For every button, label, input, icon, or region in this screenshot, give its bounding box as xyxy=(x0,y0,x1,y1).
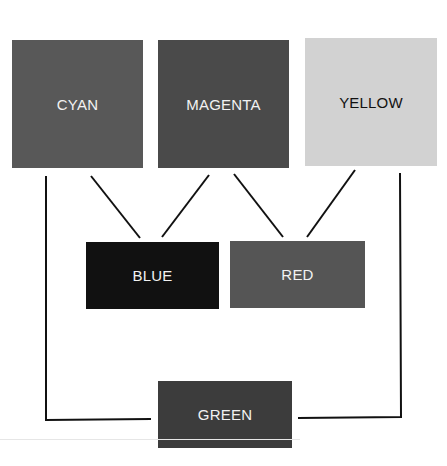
magenta-box: MAGENTA xyxy=(158,40,289,168)
red-label: RED xyxy=(281,266,313,283)
magenta-label: MAGENTA xyxy=(186,96,260,113)
connector-magenta-blue xyxy=(162,175,209,237)
green-label: GREEN xyxy=(198,406,252,423)
cyan-label: CYAN xyxy=(57,96,98,113)
blue-label: BLUE xyxy=(133,267,173,284)
yellow-box: YELLOW xyxy=(305,38,437,166)
faint-divider xyxy=(0,439,300,440)
red-box: RED xyxy=(230,241,365,308)
connector-magenta-red xyxy=(234,174,283,237)
cyan-box: CYAN xyxy=(12,40,143,168)
blue-box: BLUE xyxy=(86,242,219,309)
yellow-label: YELLOW xyxy=(339,94,403,111)
connector-yellow-red xyxy=(307,170,355,237)
connector-cyan-blue xyxy=(91,176,140,238)
green-box: GREEN xyxy=(158,381,292,448)
